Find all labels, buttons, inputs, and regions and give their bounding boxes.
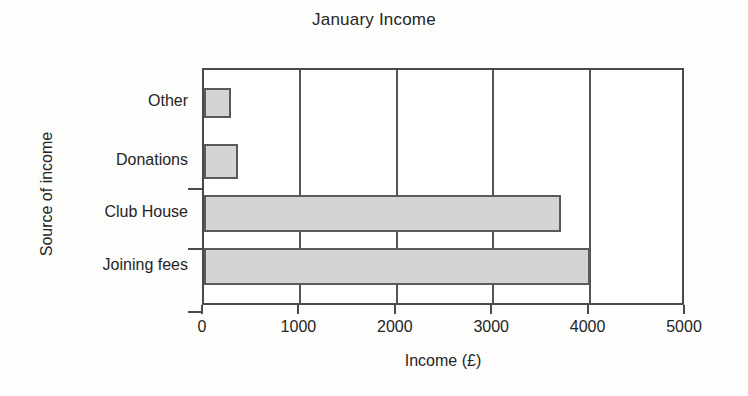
x-axis-tick-label: 4000 (548, 318, 628, 336)
x-axis-tick-mark (490, 305, 492, 314)
y-axis-tick-label: Joining fees (48, 256, 188, 274)
bar (204, 248, 590, 285)
y-axis-tick-label: Club House (48, 203, 188, 221)
x-axis-tick-label: 3000 (451, 318, 531, 336)
x-axis-title: Income (£) (202, 352, 684, 370)
x-axis-tick-label: 2000 (355, 318, 435, 336)
x-axis-tick-label: 0 (162, 318, 242, 336)
bar (204, 144, 238, 179)
x-axis-tick-mark (297, 305, 299, 314)
y-axis-tick-mark (188, 188, 202, 190)
bar (204, 88, 231, 118)
x-axis-tick-mark (683, 305, 685, 314)
bar (204, 195, 561, 232)
x-axis-tick-mark (394, 305, 396, 314)
x-axis-tick-mark (587, 305, 589, 314)
y-axis-tick-mark (188, 311, 202, 313)
y-axis-tick-labels: OtherDonationsClub HouseJoining fees (48, 0, 188, 396)
y-axis-tick-label: Other (48, 92, 188, 110)
bar-chart: January Income Source of income OtherDon… (0, 0, 748, 396)
x-axis-tick-label: 5000 (644, 318, 724, 336)
x-axis-tick-mark (201, 305, 203, 314)
y-axis-tick-label: Donations (48, 151, 188, 169)
plot-area (202, 68, 684, 305)
x-axis-tick-label: 1000 (258, 318, 338, 336)
y-axis-tick-mark (188, 248, 202, 250)
